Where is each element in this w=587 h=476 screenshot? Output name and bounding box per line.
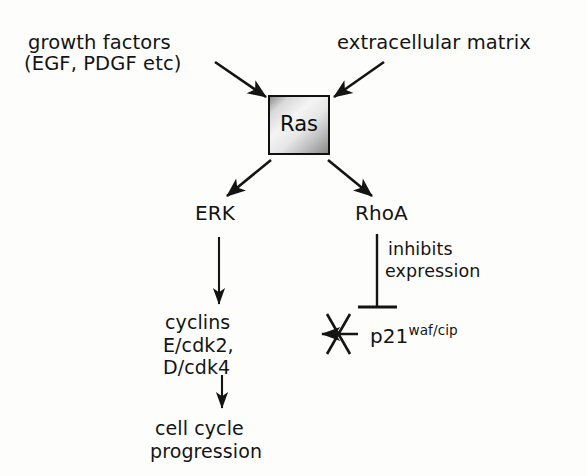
label-cyclins-line1: cyclins [165, 312, 230, 333]
label-p21-base: p21 [370, 324, 408, 348]
label-extracellular-matrix: extracellular matrix [337, 32, 531, 53]
edge-ras-to-rhoa [328, 160, 372, 196]
edge-ras-to-erk [227, 160, 271, 196]
edge-growthfactors-to-ras [215, 62, 266, 97]
label-growth-factors-line2: (EGF, PDGF etc) [24, 53, 181, 74]
label-p21-superscript: waf/cip [408, 322, 457, 338]
label-erk-node: ERK [195, 203, 235, 225]
label-growth-factors-line1: growth factors [28, 32, 171, 53]
label-cyclins-line3: D/cdk4 [163, 357, 230, 378]
ras-node: Ras [268, 95, 330, 155]
label-rhoa-node: RhoA [355, 203, 408, 225]
label-p21: p21waf/cip [370, 323, 458, 347]
label-cyclins-line2: E/cdk2, [163, 335, 234, 356]
label-inhibits: inhibits [388, 240, 453, 259]
ras-pathway-diagram: growth factors (EGF, PDGF etc) extracell… [0, 0, 587, 476]
label-cell-cycle-line2: progression [150, 441, 262, 462]
label-cell-cycle-line1: cell cycle [155, 418, 244, 439]
edge-ecm-to-ras [334, 62, 384, 97]
ras-node-label: Ras [280, 112, 318, 136]
label-expression: expression [385, 262, 480, 281]
